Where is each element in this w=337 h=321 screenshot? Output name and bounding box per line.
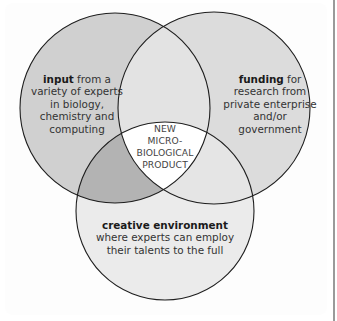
- label-funding: funding for research from private enterp…: [220, 73, 320, 135]
- label-creative-title: creative environment: [102, 219, 228, 231]
- label-creative-environment: creative environment where experts can e…: [95, 219, 235, 256]
- label-center-product: NEW MICRO- BIOLOGICAL PRODUCT: [132, 123, 198, 171]
- label-input-title: input: [43, 73, 74, 85]
- label-input: input from a variety of experts in biolo…: [22, 73, 132, 135]
- label-funding-title: funding: [239, 73, 284, 85]
